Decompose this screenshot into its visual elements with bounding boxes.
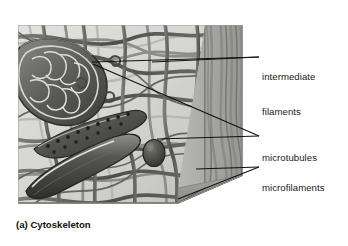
figure-caption: (a) Cytoskeleton <box>16 219 91 230</box>
label-microfilaments: microfilaments <box>262 159 325 217</box>
vesicle-shape <box>143 140 165 167</box>
label-line-2: filaments <box>262 106 315 118</box>
label-line-1: microfilaments <box>262 182 325 194</box>
cytoskeleton-illustration <box>18 25 243 210</box>
label-intermediate-filaments: intermediate filaments <box>262 48 315 141</box>
figure-cytoskeleton: intermediate filaments microtubules micr… <box>0 0 348 246</box>
label-line-1: intermediate <box>262 71 315 83</box>
